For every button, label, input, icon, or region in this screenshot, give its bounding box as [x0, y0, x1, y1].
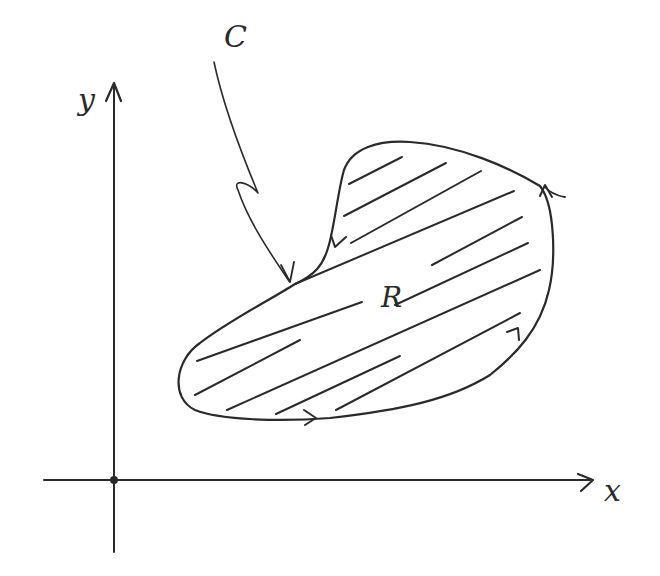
curve-label: C — [224, 19, 247, 54]
x-axis-label: x — [604, 473, 621, 508]
hatch-line — [295, 191, 514, 284]
bottom-arrowhead — [304, 410, 316, 425]
diagram-canvas: x y C R — [0, 0, 660, 576]
curve-c-boundary — [179, 142, 554, 420]
orientation-arrows — [304, 185, 565, 425]
hatch-line — [349, 157, 402, 184]
origin-dot — [110, 476, 118, 484]
hatch-line — [344, 163, 446, 216]
curve-pointer-arrow — [214, 62, 289, 281]
y-axis-label: y — [76, 82, 96, 117]
hatch-line — [432, 217, 522, 265]
region-label: R — [380, 281, 402, 314]
left-notch-arrowhead — [331, 235, 346, 247]
lower-right-arrowhead — [507, 328, 519, 340]
hatch-line — [336, 313, 520, 410]
hatch-line — [197, 302, 362, 361]
x-axis-arrowhead — [578, 474, 593, 491]
hatch-line — [195, 340, 300, 395]
hatch-line — [395, 243, 528, 305]
